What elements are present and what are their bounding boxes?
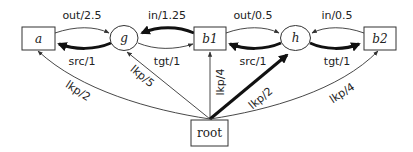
edge-label-root-g: lkp/5 — [128, 63, 157, 90]
edge-b1-to-g — [142, 28, 194, 33]
edge-h-to-b2 — [310, 43, 359, 48]
edge-g-to-b1 — [138, 43, 193, 48]
node-a: a — [22, 27, 55, 50]
edge-label-g-a: src/1 — [69, 55, 96, 68]
node-h-label: h — [292, 31, 300, 45]
edge-b1-to-h — [226, 28, 279, 33]
node-g: g — [110, 26, 138, 51]
node-root-label: root — [197, 126, 222, 140]
edge-g-to-a — [59, 43, 111, 48]
graph-diagram: a g b1 h b2 root out/2.5 src/1 in/1.25 t… — [0, 0, 413, 152]
node-b1: b1 — [194, 27, 226, 50]
edge-label-g-b1: tgt/1 — [154, 55, 180, 68]
edge-label-root-a: lkp/2 — [63, 78, 93, 104]
node-root: root — [191, 120, 228, 146]
node-b1-label: b1 — [202, 32, 217, 46]
edge-label-b2-h: in/0.5 — [321, 9, 352, 22]
edge-label-a-g: out/2.5 — [62, 9, 101, 22]
edge-label-root-h: lkp/2 — [246, 85, 275, 112]
edge-a-to-g — [55, 28, 109, 33]
edge-b2-to-h — [312, 28, 364, 33]
node-b2-label: b2 — [372, 32, 387, 46]
node-g-label: g — [120, 31, 128, 45]
edge-label-h-b1: src/1 — [240, 55, 267, 68]
node-a-label: a — [35, 32, 42, 46]
edge-label-b1-h: out/0.5 — [233, 9, 272, 22]
node-h: h — [281, 26, 311, 51]
edge-label-root-b1: lkp/4 — [214, 68, 227, 95]
edge-h-to-b1 — [230, 43, 281, 48]
edge-label-b1-g: in/1.25 — [148, 9, 186, 22]
node-b2: b2 — [364, 27, 396, 50]
edge-root-to-a — [38, 51, 210, 119]
edge-label-h-b2: tgt/1 — [324, 55, 350, 68]
